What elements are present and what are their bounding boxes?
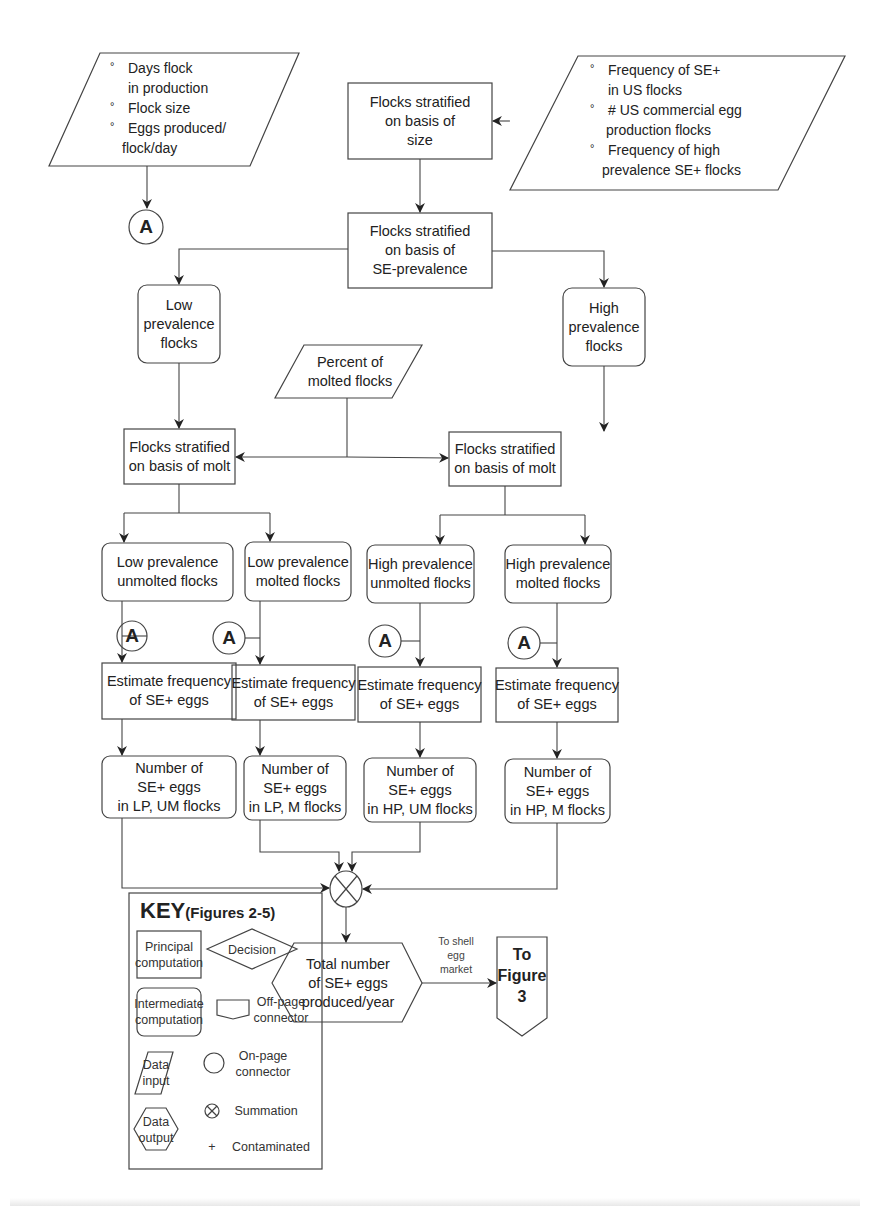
box-strat-prev-label: Flocks stratified on basis of SE-prevale…	[348, 213, 492, 288]
estimate-hp-um: Estimate frequency of SE+ eggs	[358, 667, 481, 722]
connector-a-top: A	[129, 210, 163, 244]
count-lp-m: Number of SE+ eggs in LP, M flocks	[244, 756, 346, 820]
key-contaminated: Contaminated	[230, 1139, 312, 1155]
box-molt-high-label: Flocks stratified on basis of molt	[449, 432, 561, 486]
key-contaminated-symbol: +	[205, 1139, 219, 1155]
group-lp-m: Low prevalence molted flocks	[245, 542, 351, 601]
key-data-input: Data input	[138, 1053, 174, 1093]
bullet-icon: °	[590, 138, 594, 158]
group-hp-um: High prevalence unmolted flocks	[367, 545, 474, 603]
box-molt-low-label: Flocks stratified on basis of molt	[124, 429, 235, 484]
bullet-icon: °	[110, 96, 114, 116]
key-title: KEY(Figures 2-5)	[140, 898, 275, 924]
connector-a-3: A	[369, 625, 401, 657]
key-decision: Decision	[212, 940, 292, 960]
connector-a-4: A	[508, 627, 540, 659]
count-lp-um: Number of SE+ eggs in LP, UM flocks	[102, 756, 236, 818]
bullet-icon: °	[110, 56, 114, 76]
box-high-prev-label: High prevalence flocks	[563, 288, 645, 366]
figure-caption-cutoff	[10, 1198, 860, 1206]
connector-a-1: A	[117, 621, 147, 651]
molt-percent-label: Percent of molted flocks	[290, 348, 410, 396]
bullet-icon: °	[110, 116, 114, 136]
offpage-to-figure-3[interactable]: To Figure 3	[497, 940, 547, 1010]
group-hp-m: High prevalence molted flocks	[505, 545, 611, 603]
estimate-hp-m: Estimate frequency of SE+ eggs	[496, 668, 618, 722]
bullet-icon: °	[590, 58, 594, 78]
group-lp-um: Low prevalence unmolted flocks	[102, 543, 233, 601]
key-summation: Summation	[231, 1102, 301, 1120]
count-hp-um: Number of SE+ eggs in HP, UM flocks	[364, 758, 476, 822]
connector-a-2: A	[213, 622, 245, 654]
flowchart-canvas	[0, 0, 875, 1206]
box-low-prev-label: Low prevalence flocks	[138, 285, 220, 363]
key-onpage: On-page connector	[228, 1046, 298, 1082]
count-hp-m: Number of SE+ eggs in HP, M flocks	[505, 759, 610, 823]
estimate-lp-m: Estimate frequency of SE+ eggs	[232, 665, 355, 720]
box-strat-size-label: Flocks stratified on basis of size	[348, 83, 492, 159]
bullet-icon: °	[590, 98, 594, 118]
estimate-lp-um: Estimate frequency of SE+ eggs	[102, 663, 236, 719]
edge-label-shell-egg-market: To shell egg market	[426, 930, 486, 980]
key-principal: Principal computation	[137, 931, 201, 978]
key-data-output: Data output	[134, 1110, 178, 1150]
key-intermediate: Intermediate computation	[137, 988, 201, 1036]
production-params-list: °Days flock in production °Flock size °E…	[110, 58, 226, 158]
key-offpage: Off-page connector	[250, 992, 312, 1028]
us-flock-params-list: °Frequency of SE+ in US flocks °# US com…	[590, 60, 742, 180]
